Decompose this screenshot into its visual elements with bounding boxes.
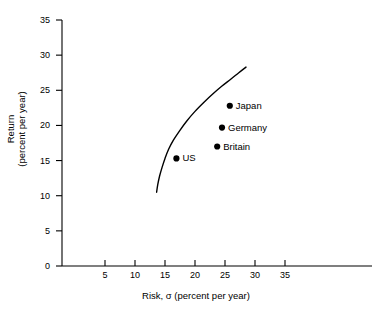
x-axis-title: Risk, σ (percent per year) (0, 290, 392, 301)
x-tick-label: 15 (154, 270, 176, 280)
y-axis-title-line2: (percent per year) (16, 69, 27, 189)
data-point-label-us: US (182, 153, 195, 163)
risk-return-chart: 05101520253035 5101520253035 USBritainGe… (0, 0, 392, 316)
data-point-britain (214, 143, 220, 149)
y-tick-label: 15 (30, 156, 50, 166)
chart-background (0, 0, 392, 316)
x-tick-label: 30 (244, 270, 266, 280)
x-tick-label: 5 (94, 270, 116, 280)
y-tick-label: 10 (30, 191, 50, 201)
x-tick-label: 35 (274, 270, 296, 280)
y-axis-title: Return (percent per year) (5, 69, 27, 189)
y-tick-label: 0 (30, 261, 50, 271)
data-point-us (173, 155, 179, 161)
data-point-label-germany: Germany (228, 123, 267, 133)
x-tick-label: 20 (184, 270, 206, 280)
data-point-germany (219, 124, 225, 130)
data-point-label-britain: Britain (223, 142, 250, 152)
data-point-japan (227, 103, 233, 109)
y-tick-label: 25 (30, 85, 50, 95)
y-tick-label: 30 (30, 50, 50, 60)
y-axis-title-line1: Return (5, 69, 16, 189)
y-tick-label: 35 (30, 15, 50, 25)
x-tick-label: 25 (214, 270, 236, 280)
x-tick-label: 10 (124, 270, 146, 280)
y-tick-label: 5 (30, 226, 50, 236)
y-tick-label: 20 (30, 120, 50, 130)
plot-area (0, 0, 392, 316)
data-point-label-japan: Japan (236, 101, 262, 111)
